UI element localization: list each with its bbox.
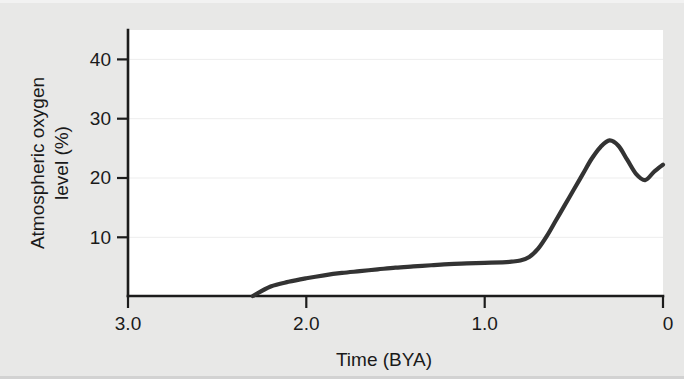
x-tick-label-1.0: 1.0 [471, 313, 497, 334]
x-axis-ticks [128, 296, 663, 308]
x-tick-label-3.0: 3.0 [115, 313, 141, 334]
x-tick-label-2.0: 2.0 [293, 313, 319, 334]
y-axis-ticks [117, 59, 128, 237]
y-tick-label-10: 10 [90, 227, 111, 248]
x-tick-label-0: 0 [663, 313, 674, 334]
y-tick-label-30: 30 [90, 108, 111, 129]
y-axis-title-line1: Atmospheric oxygen [27, 77, 48, 249]
y-tick-label-20: 20 [90, 167, 111, 188]
y-tick-label-40: 40 [90, 49, 111, 70]
oxygen-level-line-chart: 40 30 20 10 3.0 2.0 1.0 0 Time (BYA) Atm… [0, 0, 684, 379]
plot-area-background [128, 30, 663, 296]
y-axis-title-line2: level (%) [51, 126, 72, 200]
x-axis-title: Time (BYA) [336, 349, 432, 370]
figure-container: 40 30 20 10 3.0 2.0 1.0 0 Time (BYA) Atm… [0, 0, 684, 379]
